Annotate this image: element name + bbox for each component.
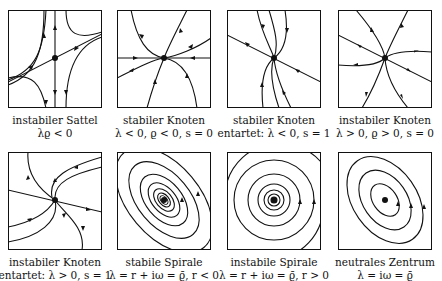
unstable-spiral-phase-portrait [227, 152, 321, 250]
degenerate-stable-node-phase-portrait [227, 10, 321, 108]
saddle-phase-portrait [8, 10, 102, 108]
panel-neutrales-zentrum: neutrales Zentrum λ = iω = ϱ̄ [338, 152, 432, 250]
panel-title: instabiler Knoten [324, 114, 442, 127]
panel-stabile-spirale: stabile Spirale λ = r + iω = ϱ̄, r < 0 [117, 152, 211, 250]
panel-condition: entartet: λ > 0, s = 1 [0, 269, 116, 281]
panel-condition: λ < 0, ϱ < 0, s = 0 [103, 127, 225, 140]
unstable-node-phase-portrait [338, 10, 432, 108]
panel-instabiler-knoten-entartet: instabiler Knoten entartet: λ > 0, s = 1 [8, 152, 102, 250]
panel-stabiler-knoten: stabiler Knoten λ < 0, ϱ < 0, s = 0 [117, 10, 211, 108]
panel-condition: λ = iω = ϱ̄ [324, 269, 442, 281]
degenerate-unstable-node-phase-portrait [8, 152, 102, 250]
panel-instabiler-sattel: instabiler Sattel λϱ < 0 [8, 10, 102, 108]
panel-title: neutrales Zentrum [324, 256, 442, 269]
panel-title: instabiler Knoten [0, 256, 116, 269]
stable-node-phase-portrait [117, 10, 211, 108]
panel-title: instabile Spirale [213, 256, 335, 269]
center-phase-portrait [338, 152, 432, 250]
panel-stabiler-knoten-entartet: stabiler Knoten entartet: λ < 0, s = 1 [227, 10, 321, 108]
stable-spiral-phase-portrait [117, 152, 211, 250]
panel-condition: λϱ < 0 [0, 127, 116, 140]
panel-condition: entartet: λ < 0, s = 1 [213, 127, 335, 140]
panel-condition: λ > 0, ϱ > 0, s = 0 [324, 127, 442, 140]
panel-condition: λ = r + iω = ϱ̄, r > 0 [213, 269, 335, 281]
panel-title: stabile Spirale [103, 256, 225, 269]
panel-title: instabiler Sattel [0, 114, 116, 127]
panel-instabile-spirale: instabile Spirale λ = r + iω = ϱ̄, r > 0 [227, 152, 321, 250]
panel-title: stabiler Knoten [213, 114, 335, 127]
panel-condition: λ = r + iω = ϱ̄, r < 0 [103, 269, 225, 281]
panel-instabiler-knoten: instabiler Knoten λ > 0, ϱ > 0, s = 0 [338, 10, 432, 108]
panel-title: stabiler Knoten [103, 114, 225, 127]
